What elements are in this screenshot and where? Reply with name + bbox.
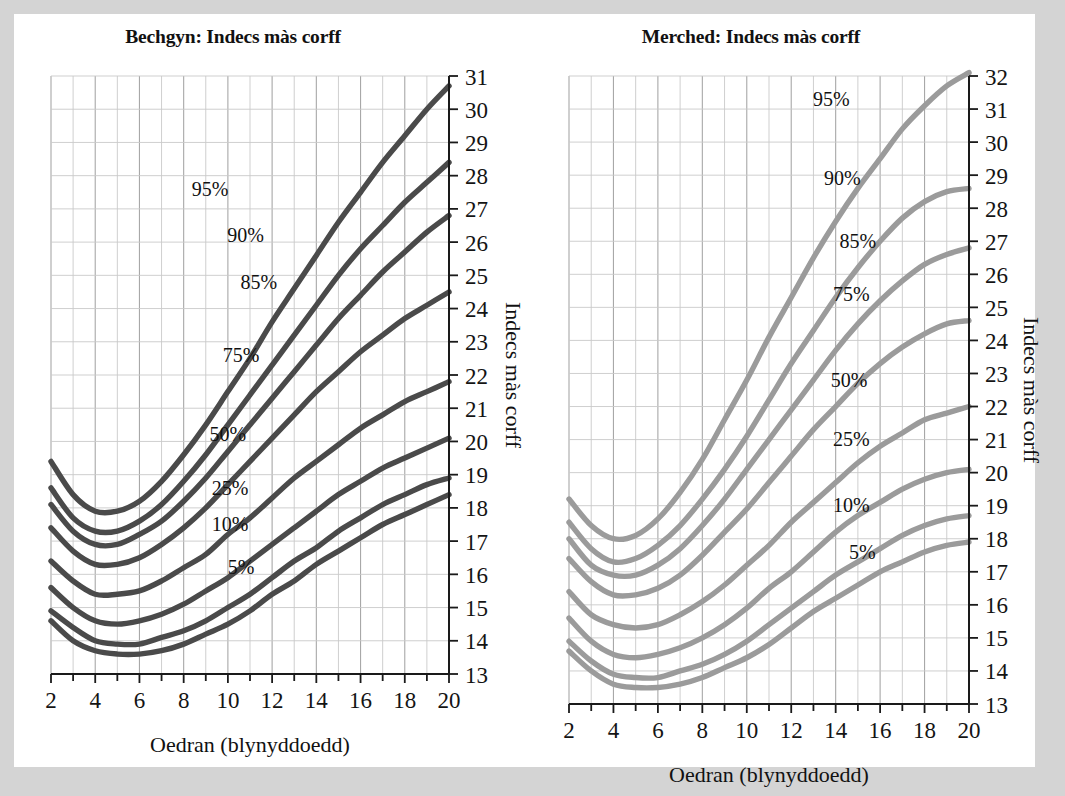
percentile-label-25: 25% — [212, 477, 249, 499]
figure-background: Bechgyn: Indecs màs corff 95%90%85%75%50… — [0, 0, 1065, 796]
percentile-label-5: 5% — [849, 541, 876, 563]
y-tick-label: 23 — [465, 330, 488, 355]
y-tick-label: 18 — [985, 527, 1008, 552]
y-tick-label: 30 — [985, 131, 1008, 156]
percentile-label-25: 25% — [833, 428, 870, 450]
x-tick-label: 20 — [958, 718, 981, 743]
percentile-label-85: 85% — [840, 230, 877, 252]
figure-card: Bechgyn: Indecs màs corff 95%90%85%75%50… — [14, 14, 1035, 767]
y-tick-label: 29 — [985, 164, 1008, 189]
percentile-label-90: 90% — [227, 224, 264, 246]
y-tick-label: 16 — [985, 593, 1008, 618]
y-tick-label: 17 — [985, 560, 1008, 585]
y-tick-label: 19 — [985, 494, 1008, 519]
axes: 2468101214161820131415161718192021222324… — [45, 65, 488, 714]
percentile-label-75: 75% — [833, 283, 870, 305]
x-tick-label: 8 — [178, 688, 190, 713]
percentile-label-10: 10% — [833, 494, 870, 516]
x-tick-label: 2 — [45, 688, 57, 713]
x-axis-title: Oedran (blynyddoedd) — [669, 762, 869, 787]
percentile-label-75: 75% — [223, 344, 260, 366]
percentile-label-10: 10% — [212, 513, 249, 535]
axes: 2468101214161820131415161718192021222324… — [563, 65, 1008, 744]
gridlines — [569, 76, 969, 704]
y-tick-label: 21 — [465, 397, 488, 422]
x-tick-label: 18 — [393, 688, 416, 713]
y-tick-label: 22 — [985, 395, 1008, 420]
x-tick-label: 6 — [134, 688, 146, 713]
y-tick-label: 13 — [985, 693, 1008, 718]
x-tick-label: 10 — [735, 718, 758, 743]
y-tick-label: 26 — [465, 231, 488, 256]
y-tick-label: 17 — [465, 530, 488, 555]
y-tick-label: 29 — [465, 131, 488, 156]
y-tick-label: 20 — [465, 430, 488, 455]
x-axis-title: Oedran (blynyddoedd) — [150, 732, 350, 757]
percentile-label-50: 50% — [210, 423, 247, 445]
y-tick-label: 13 — [465, 663, 488, 688]
x-tick-label: 18 — [913, 718, 936, 743]
y-tick-label: 28 — [465, 164, 488, 189]
x-tick-label: 16 — [349, 688, 372, 713]
y-tick-label: 25 — [985, 296, 1008, 321]
y-tick-label: 32 — [985, 65, 1008, 90]
chart-panel-boys: Bechgyn: Indecs màs corff 95%90%85%75%50… — [14, 14, 524, 767]
x-tick-label: 12 — [261, 688, 284, 713]
y-tick-label: 21 — [985, 428, 1008, 453]
y-tick-label: 18 — [465, 496, 488, 521]
x-tick-label: 4 — [608, 718, 620, 743]
x-tick-label: 14 — [305, 688, 329, 713]
x-tick-label: 14 — [824, 718, 848, 743]
chart-plot-girls: 95%90%85%75%50%25%10%5%24681012141618201… — [519, 14, 1035, 767]
percentile-label-50: 50% — [831, 369, 868, 391]
y-tick-label: 19 — [465, 463, 488, 488]
x-tick-label: 2 — [563, 718, 575, 743]
x-tick-label: 20 — [438, 688, 461, 713]
y-tick-label: 30 — [465, 98, 488, 123]
y-tick-label: 27 — [465, 197, 488, 222]
y-tick-label: 28 — [985, 197, 1008, 222]
percentile-label-95: 95% — [192, 178, 229, 200]
percentile-label-90: 90% — [824, 167, 861, 189]
y-tick-label: 14 — [465, 629, 489, 654]
y-tick-label: 15 — [465, 596, 488, 621]
chart-plot-boys: 95%90%85%75%50%25%10%5%24681012141618201… — [14, 14, 524, 767]
x-tick-label: 6 — [652, 718, 664, 743]
y-tick-label: 24 — [465, 297, 489, 322]
y-tick-label: 16 — [465, 563, 488, 588]
gridlines — [51, 76, 449, 674]
y-tick-label: 31 — [465, 65, 488, 90]
y-tick-label: 27 — [985, 230, 1008, 255]
x-tick-label: 4 — [89, 688, 101, 713]
percentile-label-95: 95% — [813, 88, 850, 110]
y-tick-label: 25 — [465, 264, 488, 289]
percentile-label-85: 85% — [241, 271, 278, 293]
y-tick-label: 22 — [465, 364, 488, 389]
x-tick-label: 8 — [697, 718, 709, 743]
y-tick-label: 23 — [985, 362, 1008, 387]
y-tick-label: 20 — [985, 461, 1008, 486]
chart-panel-girls: Merched: Indecs màs corff 95%90%85%75%50… — [519, 14, 1035, 767]
y-tick-label: 14 — [985, 659, 1009, 684]
y-tick-label: 31 — [985, 98, 1008, 123]
x-tick-label: 16 — [869, 718, 892, 743]
y-tick-label: 26 — [985, 263, 1008, 288]
y-axis-title: Indecs màs corff — [1019, 317, 1044, 464]
y-tick-label: 15 — [985, 626, 1008, 651]
x-tick-label: 12 — [780, 718, 803, 743]
x-tick-label: 10 — [216, 688, 239, 713]
y-tick-label: 24 — [985, 329, 1009, 354]
percentile-label-5: 5% — [228, 556, 255, 578]
